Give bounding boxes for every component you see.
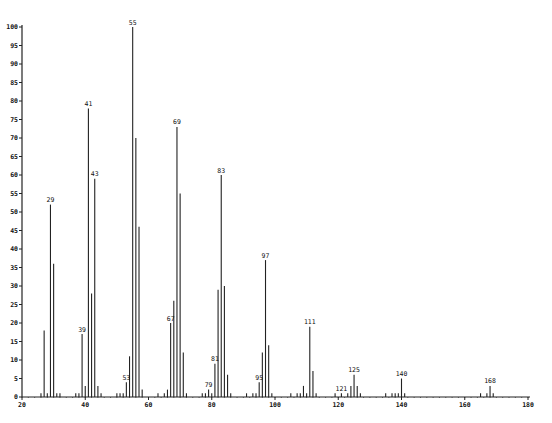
y-tick-label: 10 bbox=[10, 356, 18, 364]
y-tick-label: 15 bbox=[10, 338, 18, 346]
peak-label: 69 bbox=[173, 118, 181, 126]
y-tick-label: 70 bbox=[10, 134, 18, 142]
y-tick-label: 100 bbox=[6, 23, 18, 31]
x-tick-label: 180 bbox=[522, 401, 534, 409]
y-tick-label: 75 bbox=[10, 116, 18, 124]
peak-label: 140 bbox=[396, 370, 408, 378]
y-tick-label: 65 bbox=[10, 153, 18, 161]
peak-label: 95 bbox=[255, 374, 263, 382]
peak-label: 41 bbox=[84, 100, 92, 108]
y-tick-label: 40 bbox=[10, 245, 18, 253]
y-tick-label: 55 bbox=[10, 190, 18, 198]
x-tick-label: 40 bbox=[81, 401, 89, 409]
x-tick-label: 20 bbox=[18, 401, 26, 409]
y-tick-label: 45 bbox=[10, 227, 18, 235]
x-tick-label: 140 bbox=[396, 401, 408, 409]
x-tick-label: 120 bbox=[332, 401, 344, 409]
y-tick-label: 80 bbox=[10, 97, 18, 105]
peak-label: 83 bbox=[217, 167, 225, 175]
y-tick-label: 85 bbox=[10, 79, 18, 87]
peak-label: 81 bbox=[211, 355, 219, 363]
x-tick-label: 160 bbox=[459, 401, 471, 409]
y-tick-label: 35 bbox=[10, 264, 18, 272]
y-tick-label: 95 bbox=[10, 42, 18, 50]
peak-label: 111 bbox=[304, 318, 316, 326]
axes: 0510152025303540455055606570758085909510… bbox=[6, 23, 534, 409]
x-tick-label: 60 bbox=[145, 401, 153, 409]
x-tick-label: 100 bbox=[269, 401, 281, 409]
peak-label: 39 bbox=[78, 326, 86, 334]
y-tick-label: 25 bbox=[10, 301, 18, 309]
mass-spectrum-chart: 0510152025303540455055606570758085909510… bbox=[0, 0, 552, 423]
peak-label: 125 bbox=[348, 366, 360, 374]
x-tick-label: 80 bbox=[208, 401, 216, 409]
peak-label: 121 bbox=[336, 385, 348, 393]
y-tick-label: 30 bbox=[10, 282, 18, 290]
peak-labels: 2939414353556769798183959711112112514016… bbox=[47, 19, 496, 393]
y-tick-label: 50 bbox=[10, 208, 18, 216]
peak-label: 97 bbox=[262, 252, 270, 260]
peak-label: 168 bbox=[484, 377, 496, 385]
peak-label: 79 bbox=[205, 381, 213, 389]
peak-label: 55 bbox=[129, 19, 137, 27]
y-tick-label: 60 bbox=[10, 171, 18, 179]
peak-sticks bbox=[41, 27, 493, 397]
peak-label: 29 bbox=[47, 196, 55, 204]
y-tick-label: 90 bbox=[10, 60, 18, 68]
y-tick-label: 20 bbox=[10, 319, 18, 327]
peak-label: 67 bbox=[167, 315, 175, 323]
peak-label: 53 bbox=[122, 374, 130, 382]
y-tick-label: 5 bbox=[14, 375, 18, 383]
peak-label: 43 bbox=[91, 170, 99, 178]
